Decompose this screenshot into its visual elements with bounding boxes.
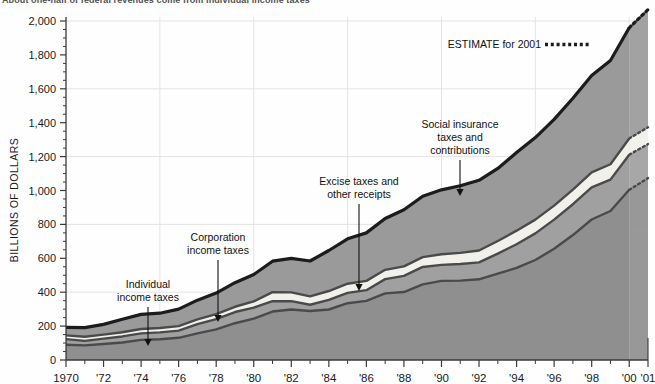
y-tick-label: 200 <box>38 320 56 332</box>
x-tick-label: 1970 <box>53 372 79 384</box>
revenue-chart-figure: About one-half of federal revenues come … <box>0 0 655 384</box>
y-tick-label: 1,200 <box>28 151 56 163</box>
annotation-line: other receipts <box>327 188 391 200</box>
estimate-legend-label: ESTIMATE for 2001 <box>448 38 541 50</box>
annotation-line: income taxes <box>117 291 179 303</box>
x-tick-label: '90 <box>434 372 449 384</box>
x-tick-label: '92 <box>472 372 487 384</box>
annotation-line: income taxes <box>187 244 249 256</box>
annotation-line: Excise taxes and <box>319 175 399 187</box>
y-tick-label: 600 <box>38 252 56 264</box>
y-tick-label: 400 <box>38 286 56 298</box>
y-tick-label: 1,600 <box>28 83 56 95</box>
x-tick-label: '74 <box>134 372 150 384</box>
x-tick-label: '82 <box>284 372 299 384</box>
estimate-legend: ESTIMATE for 2001 <box>448 38 589 50</box>
band-estimate-3 <box>629 10 648 139</box>
stacked-area-chart: 02004006008001,0001,2001,4001,6001,8002,… <box>0 0 655 384</box>
band-estimate-0 <box>629 178 648 360</box>
x-tick-label: '01 <box>641 372 655 384</box>
y-tick-label: 1,400 <box>28 117 56 129</box>
x-tick-label: '86 <box>359 372 374 384</box>
x-tick-label: '94 <box>509 372 525 384</box>
y-axis-title: BILLIONS OF DOLLARS <box>8 138 20 262</box>
x-tick-label: '78 <box>209 372 224 384</box>
annotation-line: Individual <box>126 278 170 290</box>
x-tick-label: '96 <box>547 372 562 384</box>
x-tick-label: '84 <box>321 372 337 384</box>
y-tick-label: 1,800 <box>28 49 56 61</box>
x-tick-label: '80 <box>246 372 261 384</box>
annotation-line: contributions <box>430 144 490 156</box>
annotation-line: Social insurance <box>421 118 498 130</box>
annotation-line: Corporation <box>191 231 246 243</box>
x-tick-label: '88 <box>396 372 411 384</box>
x-tick-label: '98 <box>584 372 599 384</box>
y-tick-label: 0 <box>50 354 56 366</box>
y-tick-label: 800 <box>38 218 56 230</box>
x-tick-label: '72 <box>96 372 111 384</box>
y-tick-label: 2,000 <box>28 15 56 27</box>
y-tick-label: 1,000 <box>28 185 56 197</box>
annotation-line: taxes and <box>437 131 483 143</box>
x-tick-label: '00 <box>622 372 637 384</box>
x-tick-label: '76 <box>171 372 186 384</box>
